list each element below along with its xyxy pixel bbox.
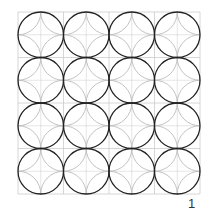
page-number: 1 <box>188 196 195 211</box>
corner-arc <box>0 0 41 35</box>
corner-arc <box>177 0 210 35</box>
circle-grid-figure <box>0 0 210 218</box>
